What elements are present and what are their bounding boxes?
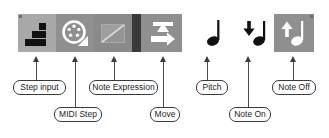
toolbar-button-move[interactable] xyxy=(141,14,182,52)
leader-line-note-off xyxy=(293,62,294,80)
callout-midi-step: MIDI Step xyxy=(54,107,102,122)
selection-notch-icon xyxy=(310,15,313,18)
toolbar xyxy=(18,14,182,52)
move-arrows-icon xyxy=(147,19,177,47)
leader-line-note-on xyxy=(248,62,249,107)
callout-note-expression: Note Expression xyxy=(89,80,158,95)
midi-din-icon xyxy=(61,19,89,47)
leader-line-note-expression xyxy=(114,62,115,80)
callout-note-on: Note On xyxy=(229,107,271,122)
selection-notch-icon xyxy=(19,15,22,18)
toolbar-button-midi-step[interactable] xyxy=(56,14,94,52)
callout-move: Move xyxy=(150,107,180,122)
toolbar-button-pitch[interactable] xyxy=(196,14,234,52)
note-on-down-arrow-icon xyxy=(241,18,271,48)
note-expression-icon xyxy=(101,24,125,43)
toolbar-button-note-expression[interactable] xyxy=(94,14,132,52)
toolbar-button-note-on[interactable] xyxy=(237,14,275,52)
toolbar-button-step-input[interactable] xyxy=(18,14,56,52)
note-off-up-arrow-icon xyxy=(279,18,309,48)
quarter-note-icon xyxy=(205,18,225,48)
leader-line-step-input xyxy=(36,62,37,80)
callout-pitch: Pitch xyxy=(196,80,228,95)
toolbar-separator xyxy=(132,14,141,52)
leader-line-midi-step xyxy=(75,62,76,107)
leader-line-move xyxy=(163,62,164,107)
toolbar-button-note-off[interactable] xyxy=(274,14,314,52)
step-staircase-icon xyxy=(24,20,50,46)
callout-step-input: Step input xyxy=(13,80,66,95)
leader-line-pitch xyxy=(207,62,208,80)
step-input-toolbar-diagram: Step input Note Expression Pitch Note Of… xyxy=(0,0,329,138)
callout-note-off: Note Off xyxy=(272,80,316,95)
